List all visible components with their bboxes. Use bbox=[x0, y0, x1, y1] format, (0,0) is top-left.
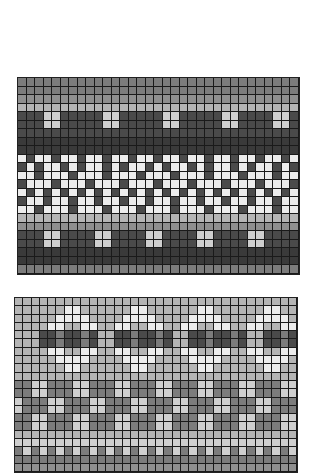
chart-cell bbox=[129, 240, 138, 249]
chart-cell bbox=[265, 197, 274, 206]
chart-cell bbox=[123, 431, 131, 439]
chart-cell bbox=[56, 464, 64, 472]
chart-cell bbox=[265, 189, 274, 198]
chart-cell bbox=[115, 422, 123, 430]
chart-cell bbox=[61, 146, 70, 155]
chart-cell bbox=[239, 356, 247, 364]
chart-cell bbox=[231, 406, 239, 414]
chart-cell bbox=[154, 121, 163, 130]
chart-cell bbox=[137, 87, 146, 96]
chart-cell bbox=[198, 389, 206, 397]
chart-cell bbox=[139, 331, 147, 339]
chart-cell bbox=[98, 456, 106, 464]
chart-cell bbox=[106, 306, 114, 314]
chart-cell bbox=[222, 197, 231, 206]
chart-cell bbox=[78, 121, 87, 130]
chart-cell bbox=[265, 138, 274, 147]
chart-cell bbox=[44, 112, 53, 121]
chart-cell bbox=[289, 348, 297, 356]
chart-cell bbox=[239, 406, 247, 414]
chart-cell bbox=[180, 231, 189, 240]
chart-cell bbox=[231, 129, 240, 138]
chart-cell bbox=[48, 389, 56, 397]
chart-cell bbox=[189, 306, 197, 314]
chart-cell bbox=[65, 389, 73, 397]
chart-cell bbox=[164, 315, 172, 323]
chart-cell bbox=[247, 306, 255, 314]
chart-cell bbox=[248, 95, 257, 104]
chart-cell bbox=[189, 389, 197, 397]
chart-cell bbox=[44, 231, 53, 240]
chart-cell bbox=[52, 231, 61, 240]
chart-cell bbox=[163, 163, 172, 172]
chart-cell bbox=[173, 414, 181, 422]
chart-cell bbox=[56, 348, 64, 356]
chart-cell bbox=[247, 431, 255, 439]
chart-cell bbox=[231, 323, 239, 331]
chart-cell bbox=[78, 95, 87, 104]
chart-cell bbox=[256, 447, 264, 455]
chart-cell bbox=[120, 197, 129, 206]
chart-cell bbox=[69, 197, 78, 206]
chart-cell bbox=[123, 439, 131, 447]
chart-cell bbox=[173, 364, 181, 372]
chart-cell bbox=[214, 146, 223, 155]
chart-cell bbox=[106, 331, 114, 339]
chart-cell bbox=[18, 155, 27, 164]
chart-cell bbox=[239, 265, 248, 274]
chart-cell bbox=[290, 172, 299, 181]
chart-cell bbox=[248, 197, 257, 206]
chart-cell bbox=[44, 223, 53, 232]
chart-cell bbox=[90, 356, 98, 364]
chart-cell bbox=[189, 348, 197, 356]
chart-cell bbox=[139, 447, 147, 455]
chart-cell bbox=[256, 223, 265, 232]
chart-cell bbox=[65, 373, 73, 381]
chart-cell bbox=[206, 447, 214, 455]
chart-cell bbox=[139, 315, 147, 323]
chart-cell bbox=[163, 146, 172, 155]
chart-cell bbox=[27, 223, 36, 232]
chart-cell bbox=[154, 163, 163, 172]
chart-cell bbox=[281, 323, 289, 331]
chart-cell bbox=[239, 348, 247, 356]
chart-cell bbox=[40, 447, 48, 455]
chart-cell bbox=[52, 223, 61, 232]
chart-cell bbox=[281, 414, 289, 422]
chart-cell bbox=[35, 180, 44, 189]
chart-cell bbox=[289, 406, 297, 414]
chart-cell bbox=[81, 439, 89, 447]
chart-cell bbox=[106, 389, 114, 397]
chart-cell bbox=[131, 381, 139, 389]
chart-cell bbox=[189, 323, 197, 331]
chart-cell bbox=[69, 78, 78, 87]
chart-cell bbox=[290, 121, 299, 130]
chart-cell bbox=[103, 112, 112, 121]
chart-cell bbox=[65, 381, 73, 389]
chart-cell bbox=[123, 464, 131, 472]
chart-cell bbox=[139, 389, 147, 397]
chart-cell bbox=[115, 464, 123, 472]
chart-cell bbox=[90, 398, 98, 406]
chart-cell bbox=[256, 163, 265, 172]
chart-cell bbox=[129, 138, 138, 147]
chart-cell bbox=[103, 240, 112, 249]
chart-cell bbox=[78, 155, 87, 164]
chart-cell bbox=[156, 381, 164, 389]
chart-cell bbox=[78, 87, 87, 96]
chart-cell bbox=[171, 189, 180, 198]
chart-cell bbox=[281, 389, 289, 397]
chart-cell bbox=[231, 223, 240, 232]
chart-cell bbox=[115, 331, 123, 339]
chart-cell bbox=[231, 155, 240, 164]
chart-cell bbox=[181, 364, 189, 372]
chart-cell bbox=[129, 78, 138, 87]
chart-cell bbox=[148, 364, 156, 372]
chart-cell bbox=[78, 189, 87, 198]
chart-cell bbox=[189, 364, 197, 372]
chart-cell bbox=[90, 456, 98, 464]
chart-cell bbox=[272, 414, 280, 422]
chart-cell bbox=[61, 248, 70, 257]
chart-cell bbox=[146, 129, 155, 138]
chart-cell bbox=[120, 180, 129, 189]
